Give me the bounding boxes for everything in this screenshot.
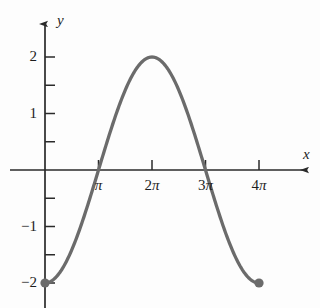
endpoint-markers — [40, 278, 263, 287]
cosine-graph-figure: y x 21−1−2 π2π3π4π — [0, 0, 320, 308]
y-tick-label: 2 — [0, 49, 37, 64]
endpoint-dot — [40, 278, 49, 287]
x-tick-label: 3π — [186, 178, 226, 193]
endpoint-dot — [254, 278, 263, 287]
x-tick-label: 4π — [239, 178, 279, 193]
y-tick-label: 1 — [0, 106, 37, 121]
x-axis-tick-marks — [99, 160, 260, 170]
plot-canvas — [0, 0, 320, 308]
x-axis-label: x — [303, 147, 310, 162]
pi-glyph: π — [205, 177, 213, 193]
pi-glyph: π — [259, 177, 267, 193]
pi-glyph: π — [152, 177, 160, 193]
y-tick-label: −1 — [0, 219, 37, 234]
y-tick-label: −2 — [0, 275, 37, 290]
x-tick-label: π — [79, 178, 119, 193]
pi-glyph: π — [95, 177, 103, 193]
x-tick-label: 2π — [132, 178, 172, 193]
y-axis-label: y — [57, 13, 64, 28]
